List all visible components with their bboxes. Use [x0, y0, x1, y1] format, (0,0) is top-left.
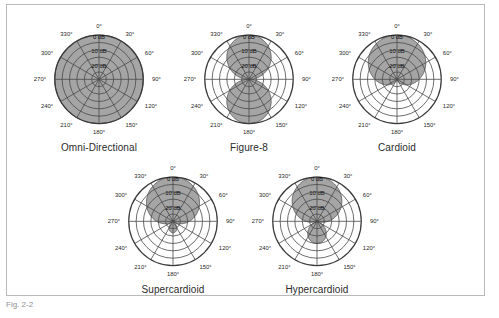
- angle-label: 180°: [243, 129, 255, 135]
- angle-label: 90°: [226, 218, 235, 224]
- angle-label: 120°: [443, 103, 455, 109]
- angle-label: 120°: [219, 245, 231, 251]
- db-label: 10 dB: [389, 48, 404, 54]
- angle-label: 60°: [145, 50, 154, 56]
- angle-label: 30°: [423, 31, 432, 37]
- plot-caption-hypercardioid: Hypercardioid: [247, 284, 387, 295]
- angle-label: 210°: [278, 264, 290, 270]
- polar-plot-figure-8: 0°30°60°90°120°150°180°210°240°270°300°3…: [179, 23, 319, 153]
- plot-caption-supercardioid: Supercardioid: [103, 284, 243, 295]
- angle-label: 150°: [199, 264, 211, 270]
- polar-plot-hypercardioid: 0°30°60°90°120°150°180°210°240°270°300°3…: [247, 165, 387, 295]
- polar-svg-hypercardioid: 0°30°60°90°120°150°180°210°240°270°300°3…: [247, 165, 387, 283]
- polar-chart-area: 0°30°60°90°120°150°180°210°240°270°300°3…: [103, 165, 243, 283]
- angle-label: 150°: [423, 122, 435, 128]
- angle-label: 330°: [210, 31, 222, 37]
- polar-svg-figure-8: 0°30°60°90°120°150°180°210°240°270°300°3…: [179, 23, 319, 141]
- db-label: 20 dB: [91, 63, 106, 69]
- angle-label: 270°: [184, 76, 196, 82]
- angle-label: 90°: [450, 76, 459, 82]
- angle-label: 210°: [60, 122, 72, 128]
- db-label: 20 dB: [165, 205, 180, 211]
- polar-svg-cardioid: 0°30°60°90°120°150°180°210°240°270°300°3…: [327, 23, 467, 141]
- angle-label: 90°: [370, 218, 379, 224]
- polar-chart-area: 0°30°60°90°120°150°180°210°240°270°300°3…: [29, 23, 169, 141]
- angle-label: 60°: [295, 50, 304, 56]
- angle-label: 300°: [115, 192, 127, 198]
- angle-label: 150°: [343, 264, 355, 270]
- polar-chart-area: 0°30°60°90°120°150°180°210°240°270°300°3…: [247, 165, 387, 283]
- db-label: 10 dB: [241, 48, 256, 54]
- db-label: 0 dB: [311, 176, 323, 182]
- angle-label: 0°: [96, 23, 102, 29]
- angle-label: 150°: [275, 122, 287, 128]
- db-label: 0 dB: [243, 34, 255, 40]
- polar-plot-omni-directional: 0°30°60°90°120°150°180°210°240°270°300°3…: [29, 23, 169, 153]
- angle-label: 330°: [134, 173, 146, 179]
- angle-label: 180°: [311, 271, 323, 277]
- angle-label: 240°: [259, 245, 271, 251]
- db-label: 0 dB: [391, 34, 403, 40]
- plot-caption-omni-directional: Omni-Directional: [29, 142, 169, 153]
- plot-caption-cardioid: Cardioid: [327, 142, 467, 153]
- angle-label: 300°: [339, 50, 351, 56]
- db-label: 20 dB: [241, 63, 256, 69]
- figure-number-caption: Fig. 2-2: [6, 300, 33, 309]
- db-label: 20 dB: [309, 205, 324, 211]
- angle-label: 180°: [391, 129, 403, 135]
- angle-label: 30°: [125, 31, 134, 37]
- angle-label: 60°: [219, 192, 228, 198]
- angle-label: 300°: [191, 50, 203, 56]
- polar-plot-cardioid: 0°30°60°90°120°150°180°210°240°270°300°3…: [327, 23, 467, 153]
- angle-label: 240°: [115, 245, 127, 251]
- angle-label: 180°: [167, 271, 179, 277]
- db-label: 20 dB: [389, 63, 404, 69]
- angle-label: 330°: [278, 173, 290, 179]
- angle-label: 240°: [339, 103, 351, 109]
- polar-chart-area: 0°30°60°90°120°150°180°210°240°270°300°3…: [179, 23, 319, 141]
- angle-label: 180°: [93, 129, 105, 135]
- angle-label: 60°: [363, 192, 372, 198]
- angle-label: 30°: [199, 173, 208, 179]
- angle-label: 210°: [134, 264, 146, 270]
- angle-label: 30°: [275, 31, 284, 37]
- angle-label: 90°: [152, 76, 161, 82]
- angle-label: 0°: [314, 165, 320, 171]
- angle-label: 0°: [170, 165, 176, 171]
- angle-label: 120°: [363, 245, 375, 251]
- angle-label: 0°: [394, 23, 400, 29]
- angle-label: 210°: [358, 122, 370, 128]
- polar-plot-supercardioid: 0°30°60°90°120°150°180°210°240°270°300°3…: [103, 165, 243, 295]
- angle-label: 270°: [34, 76, 46, 82]
- angle-label: 300°: [41, 50, 53, 56]
- polar-chart-area: 0°30°60°90°120°150°180°210°240°270°300°3…: [327, 23, 467, 141]
- polar-svg-omni-directional: 0°30°60°90°120°150°180°210°240°270°300°3…: [29, 23, 169, 141]
- angle-label: 240°: [191, 103, 203, 109]
- angle-label: 270°: [332, 76, 344, 82]
- angle-label: 60°: [443, 50, 452, 56]
- angle-label: 300°: [259, 192, 271, 198]
- angle-label: 120°: [295, 103, 307, 109]
- angle-label: 210°: [210, 122, 222, 128]
- polar-svg-supercardioid: 0°30°60°90°120°150°180°210°240°270°300°3…: [103, 165, 243, 283]
- angle-label: 240°: [41, 103, 53, 109]
- angle-label: 150°: [125, 122, 137, 128]
- plot-caption-figure-8: Figure-8: [179, 142, 319, 153]
- angle-label: 120°: [145, 103, 157, 109]
- angle-label: 270°: [108, 218, 120, 224]
- db-label: 0 dB: [167, 176, 179, 182]
- angle-label: 330°: [358, 31, 370, 37]
- angle-label: 30°: [343, 173, 352, 179]
- db-label: 10 dB: [91, 48, 106, 54]
- angle-label: 0°: [246, 23, 252, 29]
- figure-frame: 0°30°60°90°120°150°180°210°240°270°300°3…: [6, 4, 485, 296]
- angle-label: 90°: [302, 76, 311, 82]
- angle-label: 330°: [60, 31, 72, 37]
- db-label: 10 dB: [309, 190, 324, 196]
- angle-label: 270°: [252, 218, 264, 224]
- db-label: 0 dB: [93, 34, 105, 40]
- db-label: 10 dB: [165, 190, 180, 196]
